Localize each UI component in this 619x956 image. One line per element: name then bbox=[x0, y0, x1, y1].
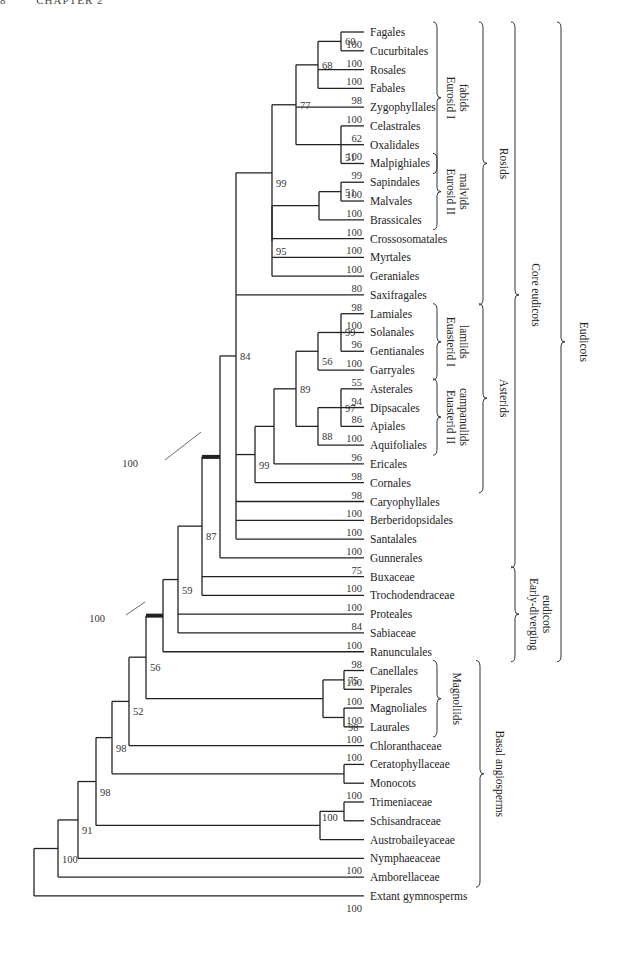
support-value: 98 bbox=[352, 471, 363, 482]
node-support: 99 bbox=[345, 327, 356, 338]
node-support: 98 bbox=[116, 743, 127, 754]
node-support: 88 bbox=[322, 431, 333, 442]
clade-label: Early-divergingeudicots bbox=[527, 578, 553, 651]
support-value: 100 bbox=[346, 264, 362, 275]
tip-labels: FagalesCucurbitalesRosalesFabalesZygophy… bbox=[370, 26, 468, 903]
tip-label: Myrtales bbox=[370, 251, 411, 264]
node-support: 95 bbox=[276, 246, 287, 257]
callout-support: 100 bbox=[89, 613, 105, 624]
support-value: 100 bbox=[346, 245, 362, 256]
support-value: 96 bbox=[352, 339, 363, 350]
tip-label: Ceratophyllaceae bbox=[370, 758, 450, 771]
support-value: 100 bbox=[346, 208, 362, 219]
callout-line bbox=[126, 602, 145, 615]
node-support: 99 bbox=[276, 178, 287, 189]
tip-label: Ranunculales bbox=[370, 646, 432, 658]
node-support: 91 bbox=[82, 825, 93, 836]
clade-label: Asterids bbox=[498, 379, 510, 418]
clade-bracket bbox=[557, 22, 565, 662]
support-value: 100 bbox=[346, 640, 362, 651]
node-support: 84 bbox=[240, 351, 251, 362]
support-value: 100 bbox=[346, 433, 362, 444]
tip-label: Crossosomatales bbox=[370, 233, 448, 245]
tip-label: Garryales bbox=[370, 364, 415, 377]
node-support: 77 bbox=[300, 100, 311, 111]
support-value: 100 bbox=[346, 508, 362, 519]
support-value: 99 bbox=[352, 170, 363, 181]
support-value: 100 bbox=[346, 790, 362, 801]
support-value: 100 bbox=[346, 546, 362, 557]
clade-bracket bbox=[433, 304, 441, 380]
clade-label: Eurosid Ifabids bbox=[445, 76, 470, 119]
node-support: 56 bbox=[150, 662, 161, 673]
clade-bracket bbox=[511, 567, 519, 662]
support-value: 80 bbox=[352, 283, 363, 294]
support-value: 55 bbox=[352, 377, 363, 388]
tip-label: Trimeniaceae bbox=[370, 796, 432, 808]
support-value: 98 bbox=[352, 490, 363, 501]
tip-label: Piperales bbox=[370, 683, 413, 696]
svg-text:fabids: fabids bbox=[458, 84, 470, 113]
node-support: 68 bbox=[322, 60, 333, 71]
tip-label: Amborellaceae bbox=[370, 871, 440, 883]
support-value: 100 bbox=[346, 358, 362, 369]
clade-bracket bbox=[433, 379, 441, 455]
tip-label: Cornales bbox=[370, 477, 411, 489]
clade-bracket bbox=[433, 22, 441, 173]
callout-support: 100 bbox=[122, 458, 138, 469]
clade-bracket bbox=[476, 661, 484, 888]
clade-bracket bbox=[511, 22, 519, 568]
node-support: 51 bbox=[345, 152, 356, 163]
tip-label: Buxaceae bbox=[370, 571, 415, 583]
tip-label: Ericales bbox=[370, 458, 408, 470]
svg-text:malvids: malvids bbox=[458, 173, 470, 210]
tip-label: Cucurbitales bbox=[370, 45, 429, 57]
svg-text:Core eudicots: Core eudicots bbox=[530, 263, 542, 327]
clade-label: Rosids bbox=[498, 148, 510, 180]
tip-label: Geraniales bbox=[370, 270, 420, 282]
node-support: 75 bbox=[348, 675, 359, 686]
clade-brackets: Eurosid IfabidsEurosid IImalvidsRosidsEu… bbox=[433, 22, 590, 887]
tip-label: Monocots bbox=[370, 777, 417, 789]
tip-label: Brassicales bbox=[370, 214, 422, 226]
support-value: 98 bbox=[352, 302, 363, 313]
tip-label: Fabales bbox=[370, 82, 406, 94]
clade-label: Eudicots bbox=[578, 322, 590, 363]
clade-label: Magnoliids bbox=[450, 672, 463, 725]
tip-label: Rosales bbox=[370, 64, 406, 76]
node-support: 87 bbox=[206, 531, 217, 542]
clade-label: Eurosid IImalvids bbox=[445, 168, 470, 214]
clade-label: Basal angiosperms bbox=[493, 731, 506, 818]
tip-label: Canellales bbox=[370, 665, 418, 677]
node-support: 52 bbox=[133, 706, 144, 717]
support-value: 98 bbox=[352, 95, 363, 106]
tip-label: Lamiales bbox=[370, 308, 413, 320]
support-value: 86 bbox=[352, 414, 363, 425]
support-value: 62 bbox=[352, 133, 363, 144]
clade-label: Euasterid IIcampanulids bbox=[445, 388, 470, 447]
support-value: 100 bbox=[346, 865, 362, 876]
support-value: 100 bbox=[346, 76, 362, 87]
svg-text:Asterids: Asterids bbox=[498, 379, 510, 418]
support-value: 100 bbox=[346, 58, 362, 69]
tip-label: Dipsacales bbox=[370, 402, 420, 415]
support-value: 100 bbox=[346, 602, 362, 613]
phylogenetic-tree: FagalesCucurbitalesRosalesFabalesZygophy… bbox=[0, 0, 619, 956]
node-support: 100 bbox=[62, 854, 78, 865]
support-values: 1001001009810062100991001001001001008098… bbox=[62, 36, 363, 913]
support-value: 100 bbox=[346, 227, 362, 238]
svg-text:Euasterid II: Euasterid II bbox=[445, 390, 457, 444]
node-support: 100 bbox=[322, 812, 338, 823]
tip-label: Magnoliales bbox=[370, 702, 427, 715]
tip-label: Asterales bbox=[370, 383, 413, 395]
svg-text:Magnoliids: Magnoliids bbox=[450, 672, 463, 725]
support-value: 84 bbox=[352, 621, 363, 632]
tip-label: Sabiaceae bbox=[370, 627, 416, 639]
svg-text:Euasterid I: Euasterid I bbox=[445, 317, 457, 367]
tip-label: Chloranthaceae bbox=[370, 740, 442, 752]
tip-label: Apiales bbox=[370, 420, 406, 433]
node-support: 98 bbox=[348, 722, 359, 733]
support-value: 100 bbox=[346, 527, 362, 538]
support-value: 100 bbox=[346, 583, 362, 594]
support-value: 100 bbox=[346, 903, 362, 914]
